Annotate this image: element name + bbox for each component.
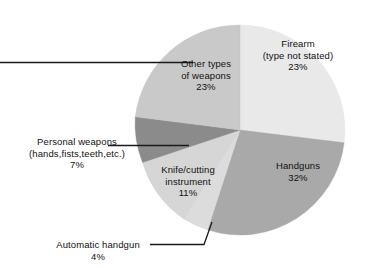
callout-label-automatic-handgun-line1: Automatic handgun: [38, 239, 158, 251]
slice-label-handguns: Handguns 32%: [252, 160, 344, 183]
slice-label-handguns-line1: Handguns: [252, 160, 344, 172]
pie-chart: Firearm (type not stated) 23% Handguns 3…: [0, 0, 370, 268]
slice-label-handguns-percent: 32%: [252, 172, 344, 184]
slice-label-knife-line2: instrument: [149, 176, 227, 188]
slice-label-knife-line1: Knife/cutting: [149, 164, 227, 176]
slice-label-other-types-percent: 23%: [160, 81, 252, 93]
callout-label-automatic-handgun: Automatic handgun 4%: [38, 239, 158, 262]
slice-label-knife-percent: 11%: [149, 187, 227, 199]
callout-label-personal-weapons: Personal weapons (hands,fists,teeth,etc.…: [4, 136, 150, 171]
slice-label-firearm-line1: Firearm: [246, 38, 350, 50]
slice-label-firearm-percent: 23%: [246, 61, 350, 73]
callout-label-personal-weapons-line2: (hands,fists,teeth,etc.): [4, 148, 150, 160]
slice-label-other-types-line2: of weapons: [160, 70, 252, 82]
callout-label-automatic-handgun-percent: 4%: [38, 251, 158, 263]
slice-label-other-types-of-weapons: Other types of weapons 23%: [160, 58, 252, 93]
slice-label-knife-cutting-instrument: Knife/cutting instrument 11%: [149, 164, 227, 199]
callout-label-personal-weapons-percent: 7%: [4, 159, 150, 171]
slice-label-firearm: Firearm (type not stated) 23%: [246, 38, 350, 73]
slice-label-firearm-line2: (type not stated): [246, 50, 350, 62]
callout-label-personal-weapons-line1: Personal weapons: [4, 136, 150, 148]
slice-label-other-types-line1: Other types: [160, 58, 252, 70]
